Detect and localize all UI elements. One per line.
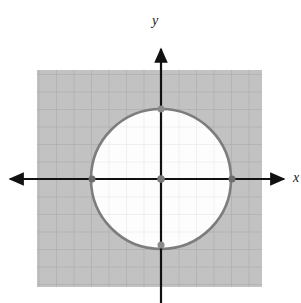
center-point (157, 175, 165, 183)
top-point (158, 106, 165, 113)
bottom-point (158, 242, 165, 249)
x-axis-label: x (293, 171, 299, 185)
coordinate-plane-graphic (0, 0, 301, 303)
y-axis-label: y (152, 14, 158, 28)
right-point (229, 176, 236, 183)
left-point (89, 176, 96, 183)
figure-canvas: y x (0, 0, 301, 303)
